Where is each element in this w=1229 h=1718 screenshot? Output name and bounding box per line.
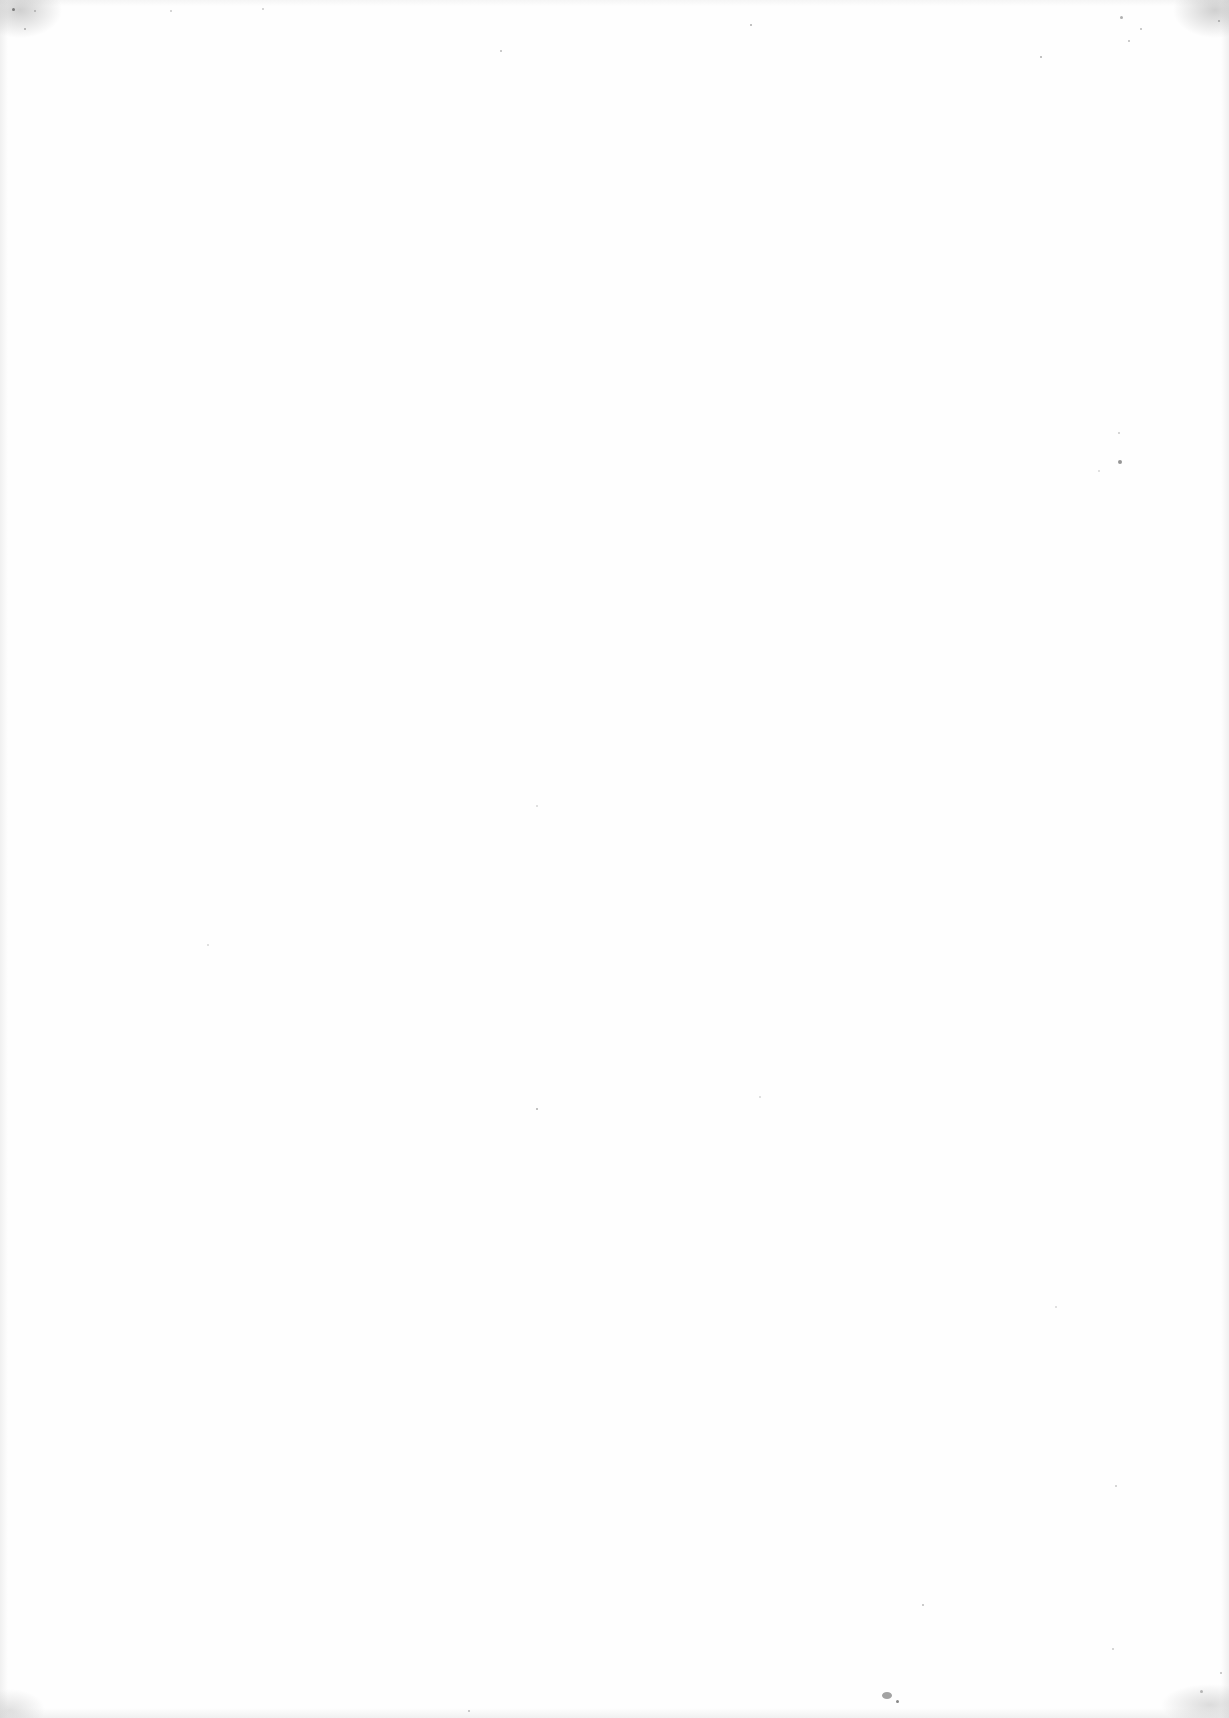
scan-speck: [262, 8, 264, 10]
scan-speck: [1200, 1690, 1203, 1693]
scan-speck: [500, 50, 502, 52]
scan-speck: [1118, 432, 1120, 434]
scan-speck: [759, 1096, 761, 1098]
scan-speck: [1120, 16, 1123, 19]
scan-speck: [1118, 460, 1122, 464]
scan-speck: [34, 10, 36, 12]
blank-page: [0, 0, 1229, 1718]
scan-speck: [1140, 28, 1142, 30]
scan-speck: [1218, 20, 1220, 22]
scan-speck: [1040, 56, 1042, 58]
scan-speck: [1115, 1485, 1117, 1487]
scan-speck: [1128, 40, 1130, 42]
scan-speck: [750, 24, 752, 26]
scan-speck: [1055, 1306, 1057, 1308]
scan-speck: [12, 8, 15, 11]
scan-speck: [468, 1710, 470, 1712]
scan-speck: [896, 1700, 899, 1703]
scan-speck: [207, 944, 209, 946]
scan-speck: [536, 1108, 538, 1110]
scan-speck: [1112, 1648, 1114, 1650]
scan-speck: [1098, 470, 1100, 472]
scan-edge-shading: [0, 0, 1229, 1718]
scan-speck: [922, 1604, 924, 1606]
scan-speck: [170, 10, 172, 12]
scan-speck: [882, 1692, 892, 1699]
scan-speck: [1220, 1672, 1222, 1674]
scan-speck: [24, 28, 26, 30]
scan-speck: [536, 805, 538, 807]
